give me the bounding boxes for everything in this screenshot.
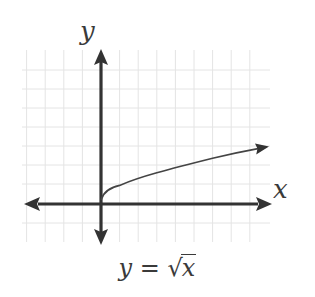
equation-caption: y = √x <box>0 254 315 280</box>
x-axis-right-arrow-icon <box>256 197 272 211</box>
sqrt-function-graph: y x y = √x <box>0 0 315 297</box>
grid <box>22 50 270 242</box>
y-axis-label: y <box>80 18 95 44</box>
equation-radicand: x <box>181 254 197 280</box>
equation-equals: = <box>140 254 160 282</box>
coordinate-plane <box>0 0 315 297</box>
x-axis-label: x <box>273 176 288 202</box>
sqrt-curve <box>101 149 258 200</box>
equation-lhs: y <box>119 254 133 282</box>
